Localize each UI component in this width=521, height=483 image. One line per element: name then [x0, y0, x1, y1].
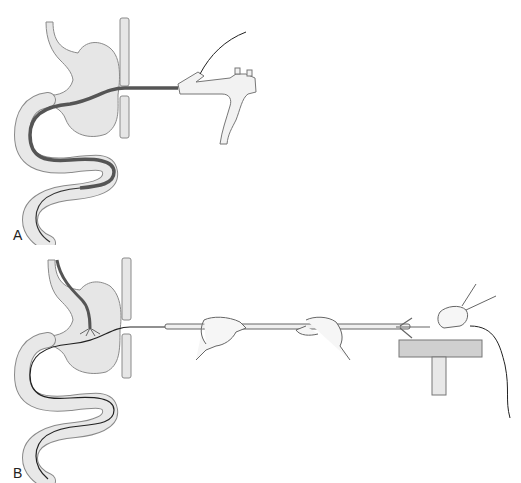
- far-hand: [438, 284, 496, 328]
- panel-label-a: A: [13, 227, 22, 243]
- stomach: [44, 260, 121, 373]
- enteroscope-control-handle: [178, 68, 256, 144]
- panel-b-illustration: [0, 250, 521, 483]
- support-table: [399, 340, 482, 395]
- diaphragm: [120, 18, 129, 138]
- diaphragm: [122, 258, 131, 378]
- panel-label-b: B: [13, 465, 22, 481]
- stomach: [45, 22, 120, 136]
- panel-a: A: [0, 0, 521, 245]
- panel-a-illustration: [0, 0, 521, 245]
- panel-b: B: [0, 250, 521, 483]
